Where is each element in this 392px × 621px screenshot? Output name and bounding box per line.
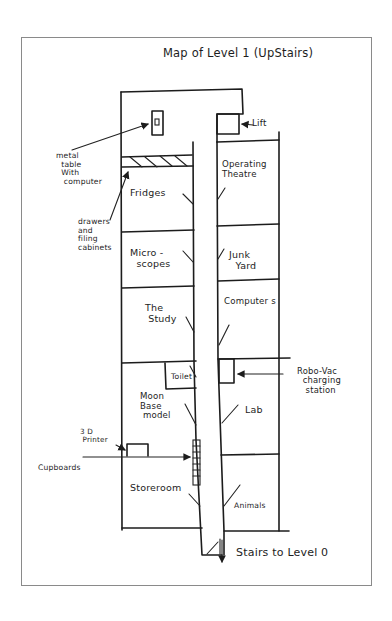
room-animals: Animals [234, 502, 266, 511]
metal-table [152, 111, 163, 135]
label-stairs-to-level-0: Stairs to Level 0 [236, 547, 328, 559]
drawers-arrow [110, 172, 128, 220]
room-the-study: The Study [145, 303, 177, 324]
room-junk-yard: Junk Yard [229, 250, 256, 271]
room-computers: Computer s [224, 297, 276, 307]
floor-plan-drawing [0, 0, 392, 621]
room-lab: Lab [245, 405, 263, 416]
computer-on-table [155, 119, 159, 125]
robo-vac-station [219, 359, 234, 383]
room-moon-base-model: Moon Base model [140, 392, 171, 421]
corridor-right-wall [217, 142, 224, 555]
room-fridges: Fridges [130, 188, 166, 199]
3d-printer [127, 444, 148, 456]
label-drawers-filing-cabinets: drawers and filing cabinets [78, 218, 112, 252]
map-title: Map of Level 1 (UpStairs) [163, 47, 313, 60]
room-toilet: Toilet [171, 373, 192, 382]
metal-table-arrow [72, 124, 148, 150]
label-3d-printer: 3 D Printer [80, 428, 108, 444]
printer-arrow [116, 445, 125, 450]
stair-mark [207, 539, 220, 554]
drawers-hatched-bar [122, 155, 193, 167]
label-robo-vac-station: Robo-Vac charging station [297, 367, 341, 395]
room-operating-theatre: Operating Theatre [222, 160, 267, 179]
lift-shaft [217, 114, 239, 134]
label-lift: Lift [252, 119, 267, 129]
room-storeroom: Storeroom [130, 483, 182, 494]
door-swings [183, 188, 240, 506]
label-cupboards: Cupboards [38, 464, 81, 473]
label-metal-table: metal table With computer [56, 152, 102, 186]
room-microscopes: Micro - scopes [130, 248, 170, 269]
